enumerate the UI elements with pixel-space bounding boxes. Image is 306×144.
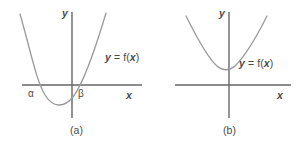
panel-b: y x y = f(x) (b) (153, 0, 306, 144)
y-axis-label-b: y (219, 8, 225, 19)
function-label-a-close: ) (136, 51, 140, 63)
x-axis-label-b: x (277, 90, 283, 101)
panel-a-plot (0, 0, 153, 144)
root-label-alpha: α (28, 89, 34, 99)
function-label-b-close: ) (270, 57, 274, 69)
panel-caption-a: (a) (0, 125, 153, 136)
x-axis-label-a: x (126, 90, 132, 101)
figure-container: y x α β y = f(x) (a) y x y = f(x) (b) (0, 0, 306, 144)
panel-caption-b: (b) (153, 125, 306, 136)
function-label-a: y = f(x) (105, 52, 139, 63)
function-label-a-eq: = f( (111, 51, 130, 63)
function-label-b-eq: = f( (245, 57, 264, 69)
root-label-beta: β (78, 89, 84, 99)
panel-a: y x α β y = f(x) (a) (0, 0, 153, 144)
y-axis-label-a: y (62, 8, 68, 19)
panel-b-plot (153, 0, 306, 144)
function-label-b: y = f(x) (239, 58, 273, 69)
